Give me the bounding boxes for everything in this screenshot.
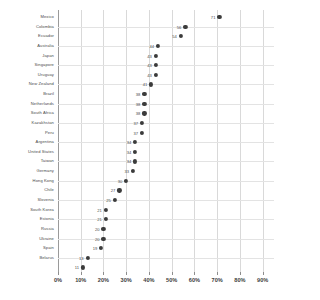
data-point-dot[interactable] (179, 34, 183, 38)
data-point-label: 20 (95, 236, 100, 241)
x-axis-tick-label: 90% (257, 277, 268, 283)
category-label: Netherlands (31, 99, 54, 109)
data-row: Chile27 (58, 185, 274, 195)
data-point-dot[interactable] (131, 169, 135, 173)
data-point-dot[interactable] (217, 15, 221, 19)
data-point-label: 44 (149, 43, 154, 48)
category-label: Japan (42, 51, 54, 61)
data-point-label: 27 (111, 188, 116, 193)
data-point-label: 25 (106, 198, 111, 203)
data-point-dot[interactable] (183, 25, 187, 29)
data-point-label: 38 (136, 111, 141, 116)
data-point-dot[interactable] (154, 53, 158, 57)
data-point-dot[interactable] (113, 198, 117, 202)
category-label: Estonia (40, 214, 54, 224)
data-row: South Korea21 (58, 205, 274, 215)
data-point-label: 43 (147, 72, 152, 77)
x-axis-tick-label: 70% (212, 277, 223, 283)
category-label: New Zealand (29, 79, 54, 89)
data-point-label: 37 (134, 130, 139, 135)
category-label: Germany (36, 166, 54, 176)
category-label: Belarus (39, 253, 54, 263)
x-axis-tick-label: 0% (54, 277, 62, 283)
data-point-label: 21 (97, 217, 102, 222)
data-row: Colombia56 (58, 22, 274, 32)
data-point-dot[interactable] (101, 236, 105, 240)
data-row: United States34 (58, 147, 274, 157)
x-axis-tick-label: 60% (189, 277, 200, 283)
data-point-label: 38 (136, 101, 141, 106)
data-point-dot[interactable] (117, 188, 121, 192)
data-point-dot[interactable] (99, 246, 103, 250)
data-point-dot[interactable] (142, 102, 146, 106)
category-label: South Korea (30, 205, 54, 215)
x-axis: 0%10%20%30%40%50%60%70%80%90% (58, 272, 274, 292)
data-point-label: 19 (93, 246, 98, 251)
data-row: Germany33 (58, 166, 274, 176)
category-label: Kazakhstan (32, 118, 54, 128)
data-point-dot[interactable] (154, 73, 158, 77)
data-point-dot[interactable] (142, 111, 146, 115)
data-point-dot[interactable] (154, 63, 158, 67)
category-label: Mexico (40, 12, 54, 22)
data-point-label: 71 (211, 15, 216, 20)
x-axis-tick (263, 272, 264, 275)
x-axis-tick (58, 272, 59, 275)
data-row: Japan43 (58, 51, 274, 61)
data-point-label: 37 (134, 120, 139, 125)
data-point-dot[interactable] (133, 159, 137, 163)
category-label: Hong Kong (33, 176, 54, 186)
data-row: Hong Kong30 (58, 176, 274, 186)
data-point-dot[interactable] (104, 217, 108, 221)
x-axis-tick (194, 272, 195, 275)
data-row: 11 (58, 262, 274, 272)
data-point-dot[interactable] (149, 82, 153, 86)
category-label: Chile (44, 185, 54, 195)
data-row: New Zealand41 (58, 79, 274, 89)
category-label: Singapore (34, 60, 54, 70)
category-label: South Africa (31, 108, 54, 118)
data-point-dot[interactable] (142, 92, 146, 96)
data-point-dot[interactable] (140, 130, 144, 134)
data-point-label: 43 (147, 63, 152, 68)
category-label: Ecuador (38, 31, 54, 41)
data-point-dot[interactable] (85, 256, 89, 260)
data-row: Ukraine20 (58, 234, 274, 244)
data-point-label: 43 (147, 53, 152, 58)
data-row: South Africa38 (58, 108, 274, 118)
plot-area: Mexico71Colombia56Ecuador54Australia44Ja… (58, 10, 274, 272)
data-row: Brazil38 (58, 89, 274, 99)
data-row: Mexico71 (58, 12, 274, 22)
category-label: Argentina (36, 137, 54, 147)
category-label: United States (28, 147, 54, 157)
data-point-label: 20 (95, 226, 100, 231)
data-point-label: 56 (177, 24, 182, 29)
data-row: Spain19 (58, 243, 274, 253)
data-point-dot[interactable] (124, 179, 128, 183)
data-point-dot[interactable] (104, 208, 108, 212)
x-axis-tick (172, 272, 173, 275)
category-label: Uruguay (38, 70, 54, 80)
data-point-dot[interactable] (101, 227, 105, 231)
category-label: Peru (45, 128, 54, 138)
data-point-dot[interactable] (140, 121, 144, 125)
category-label: Slovenia (37, 195, 54, 205)
data-point-dot[interactable] (81, 265, 85, 269)
x-axis-tick-label: 50% (166, 277, 177, 283)
x-axis-tick (81, 272, 82, 275)
data-row: Netherlands38 (58, 99, 274, 109)
x-axis-tick (240, 272, 241, 275)
data-point-dot[interactable] (133, 140, 137, 144)
data-point-dot[interactable] (156, 44, 160, 48)
category-label: Russia (41, 224, 54, 234)
data-row: Australia44 (58, 41, 274, 51)
x-axis-tick (149, 272, 150, 275)
data-point-dot[interactable] (133, 150, 137, 154)
data-row: Peru37 (58, 128, 274, 138)
data-point-label: 30 (118, 178, 123, 183)
data-point-label: 34 (127, 149, 132, 154)
data-point-label: 41 (143, 82, 148, 87)
data-point-label: 13 (79, 255, 84, 260)
data-row: Russia20 (58, 224, 274, 234)
x-axis-tick (103, 272, 104, 275)
